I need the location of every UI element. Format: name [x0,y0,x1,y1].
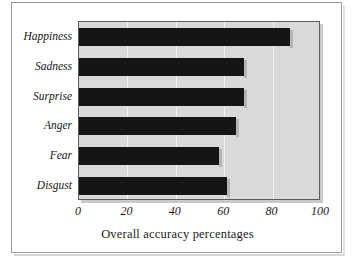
bar-row [79,177,320,195]
category-label-disgust: Disgust [0,179,72,191]
bar-row [79,28,320,46]
category-label-surprise: Surprise [0,90,72,102]
x-tick-label-60: 60 [203,204,243,219]
bar-surprise [79,88,244,106]
bar-row [79,58,320,76]
bar-anger [79,117,236,135]
category-label-happiness: Happiness [0,30,72,42]
category-label-fear: Fear [0,149,72,161]
figure-frame-shadow-right [343,5,345,256]
bar-shadow [236,119,239,137]
x-tick-label-40: 40 [155,204,195,219]
bar-happiness [79,28,290,46]
bar-fear [79,147,219,165]
bar-row [79,117,320,135]
figure-frame-shadow-bottom [14,254,345,256]
x-tick-label-20: 20 [106,204,146,219]
x-axis-title: Overall accuracy percentages [0,227,355,242]
bar-sadness [79,58,244,76]
bar-shadow [227,179,230,197]
bar-shadow [219,149,222,167]
bar-shadow [244,90,247,108]
bar-shadow [290,30,293,48]
bar-shadow [244,60,247,78]
x-tick-label-80: 80 [252,204,292,219]
category-label-anger: Anger [0,119,72,131]
plot-area [78,21,320,200]
x-tick-label-100: 100 [300,204,340,219]
bar-row [79,88,320,106]
bar-row [79,147,320,165]
x-tick-label-0: 0 [58,204,98,219]
category-label-sadness: Sadness [0,60,72,72]
bars-group [79,22,319,199]
bar-disgust [79,177,227,195]
